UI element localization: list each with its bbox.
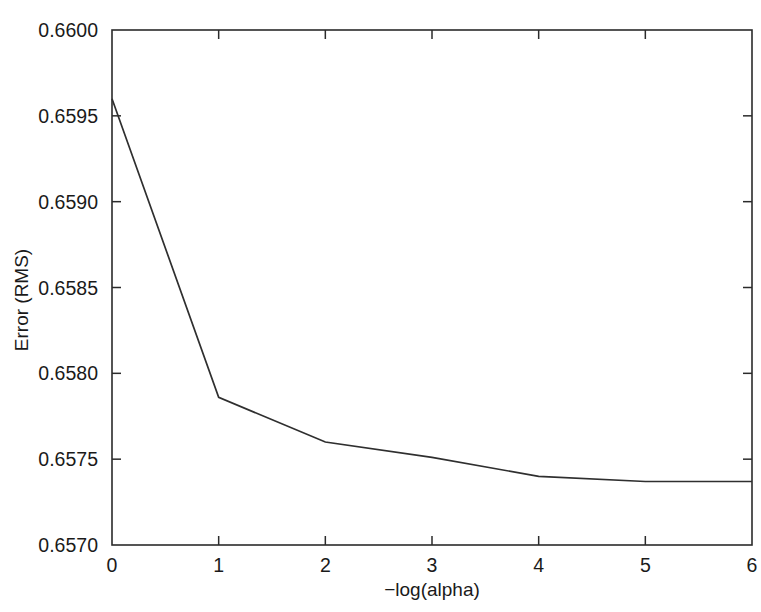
x-axis-label: −log(alpha) (384, 579, 480, 600)
line-chart: 0.65700.65750.65800.65850.65900.65950.66… (0, 0, 761, 612)
y-tick-label: 0.6595 (38, 105, 98, 127)
x-tick-label: 0 (107, 554, 118, 576)
x-tick-label: 1 (213, 554, 224, 576)
plot-background (0, 0, 761, 612)
x-tick-label: 2 (320, 554, 331, 576)
x-tick-label: 6 (747, 554, 758, 576)
x-tick-label: 3 (427, 554, 438, 576)
y-tick-label: 0.6570 (38, 534, 98, 556)
y-tick-label: 0.6585 (38, 277, 98, 299)
y-tick-label: 0.6600 (38, 19, 98, 41)
y-tick-label: 0.6590 (38, 191, 98, 213)
y-axis-label: Error (RMS) (11, 249, 32, 351)
x-tick-label: 4 (533, 554, 544, 576)
y-tick-label: 0.6580 (38, 362, 98, 384)
y-tick-label: 0.6575 (38, 448, 98, 470)
figure-root: 0.65700.65750.65800.65850.65900.65950.66… (0, 0, 761, 612)
x-tick-label: 5 (640, 554, 651, 576)
